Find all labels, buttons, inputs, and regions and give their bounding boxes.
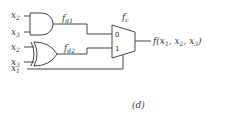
mux-input-1-label: 1 <box>115 45 119 53</box>
mux-label: fc <box>121 12 129 23</box>
caption: (d) <box>132 100 145 110</box>
fd2-label: fd2 <box>63 43 75 54</box>
mux-input-0-label: 0 <box>115 31 119 39</box>
and-gate <box>30 13 53 35</box>
fd1-label: fd1 <box>61 13 73 24</box>
mux <box>112 25 135 58</box>
and-input-x2: x2 <box>11 10 20 21</box>
wire-fd1 <box>53 24 112 34</box>
circuit-diagram: x2 x3 fd1 x2 x3 fd2 fc 0 1 x1 f(x1, x2, … <box>0 0 230 122</box>
output-label: f(x1, x2, x3) <box>152 36 202 47</box>
xor-input-x2: x2 <box>11 42 20 53</box>
and-input-x3: x3 <box>11 27 20 38</box>
xor-gate <box>34 42 57 66</box>
